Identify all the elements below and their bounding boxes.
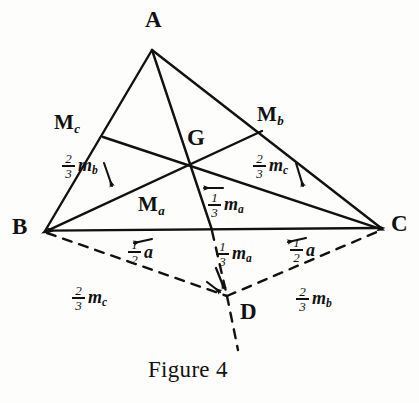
fraction-two-thirds: 2 3	[253, 152, 266, 180]
fraction-one-third: 1 3	[208, 191, 221, 219]
symbol-base: m	[269, 155, 283, 175]
fraction-one-half: 1 2	[128, 238, 141, 266]
symbol-base: m	[232, 243, 246, 263]
midpoint-Ma-base: M	[138, 192, 158, 216]
fraction-two-thirds: 2 3	[296, 285, 309, 313]
symbol-base: m	[224, 194, 238, 214]
fraction-numerator: 1	[291, 236, 302, 249]
fraction-numerator: 1	[217, 240, 228, 253]
annotation-two-thirds-mb-lower: 2 3 mb	[296, 285, 332, 313]
annotation-two-thirds-mc-upper: 2 3 mc	[253, 152, 288, 180]
symbol-subscript: c	[102, 296, 107, 308]
fraction-one-half: 1 2	[290, 236, 303, 264]
symbol-base: a	[306, 240, 315, 260]
symbol-mc: mc	[88, 288, 107, 309]
fraction-numerator: 2	[73, 284, 84, 297]
symbol-subscript: c	[283, 164, 288, 176]
symbol-mb: mb	[312, 289, 332, 310]
symbol-subscript: b	[326, 297, 332, 309]
fraction-denominator: 3	[209, 206, 220, 219]
side-ab	[45, 50, 152, 231]
midpoint-Mb-subscript: b	[277, 113, 284, 128]
symbol-base: m	[78, 155, 92, 175]
symbol-a: a	[306, 241, 315, 259]
symbol-subscript: a	[238, 203, 244, 215]
fraction-numerator: 2	[297, 285, 308, 298]
figure-canvas: A B C G D Mc Mb Ma 2 3 mb 2 3 mc 1	[0, 0, 419, 403]
point-label-Mc: Mc	[54, 112, 80, 135]
fraction-numerator: 1	[129, 238, 140, 251]
midpoint-Mb-base: M	[257, 102, 277, 126]
point-label-A: A	[145, 8, 162, 31]
fraction-one-third: 1 3	[216, 240, 229, 268]
point-label-D: D	[240, 300, 257, 323]
symbol-base: m	[312, 288, 326, 308]
fraction-numerator: 2	[254, 152, 265, 165]
dashed-d-extension	[227, 296, 238, 350]
fraction-denominator: 3	[217, 255, 228, 268]
annotation-one-half-a-left: 1 2 a	[128, 238, 153, 266]
fraction-two-thirds: 2 3	[72, 284, 85, 312]
figure-caption: Figure 4	[148, 357, 228, 383]
fraction-denominator: 3	[63, 167, 74, 180]
fraction-denominator: 2	[129, 253, 140, 266]
symbol-mb: mb	[78, 156, 98, 177]
point-label-Ma: Ma	[138, 194, 165, 217]
annotation-one-third-ma-lower: 1 3 ma	[216, 240, 252, 268]
symbol-mc: mc	[269, 156, 288, 177]
fraction-numerator: 1	[209, 191, 220, 204]
symbol-subscript: b	[92, 164, 98, 176]
fraction-denominator: 3	[254, 167, 265, 180]
arrow-two-thirds-mb-upper	[104, 163, 112, 186]
symbol-base: a	[144, 242, 153, 262]
fraction-denominator: 3	[73, 299, 84, 312]
symbol-ma: ma	[224, 195, 244, 216]
midpoint-Ma-subscript: a	[158, 203, 165, 218]
point-label-G: G	[187, 126, 205, 149]
symbol-a: a	[144, 243, 153, 261]
midpoint-Mc-subscript: c	[74, 121, 80, 136]
fraction-denominator: 3	[297, 300, 308, 313]
annotation-two-thirds-mc-lower: 2 3 mc	[72, 284, 107, 312]
point-label-Mb: Mb	[257, 104, 284, 127]
midpoint-Mc-base: M	[54, 110, 74, 134]
fraction-numerator: 2	[63, 152, 74, 165]
fraction-two-thirds: 2 3	[62, 152, 75, 180]
annotation-one-third-ma-upper: 1 3 ma	[208, 191, 244, 219]
annotation-two-thirds-mb-upper: 2 3 mb	[62, 152, 98, 180]
point-label-C: C	[391, 212, 408, 235]
fraction-denominator: 2	[291, 251, 302, 264]
symbol-base: m	[88, 287, 102, 307]
annotation-one-half-a-right: 1 2 a	[290, 236, 315, 264]
symbol-ma: ma	[232, 244, 252, 265]
point-label-B: B	[12, 215, 27, 238]
symbol-subscript: a	[246, 252, 252, 264]
